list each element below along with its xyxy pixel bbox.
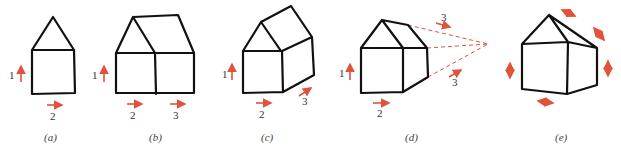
label-1: 1 [9,69,15,81]
panel-a: 1 2 (a) [9,17,75,144]
caption-d: (d) [405,131,418,144]
label-3: 3 [173,109,179,121]
panel-c: 1 2 3 (c) [222,6,314,144]
label-2: 2 [259,108,265,120]
label-1: 1 [222,68,228,80]
house-b [116,15,194,94]
double-arrow-diagonal-icon [594,28,604,40]
caption-e: (e) [555,131,568,144]
label-3-bottom: 3 [452,76,458,88]
caption-b: (b) [149,131,162,144]
arrow-depth-icon [436,23,450,27]
caption-c: (c) [261,131,274,144]
house-d [361,20,428,93]
label-1: 1 [339,67,345,79]
label-3: 3 [302,95,308,107]
vanishing-line-middle [427,44,488,48]
panel-e: (e) [510,10,608,144]
double-arrow-diagonal-icon [562,10,575,16]
panel-d: 1 2 3 3 (d) [339,11,488,144]
house-e [522,15,597,94]
figure-canvas: 1 2 (a) 1 2 3 (b) 1 2 3 (c) 1 2 3 [0,0,621,148]
label-2: 2 [50,110,56,122]
house-c [243,6,314,93]
label-2: 2 [377,107,383,119]
caption-a: (a) [44,131,57,144]
panel-b: 1 2 3 (b) [92,15,194,144]
house-a [32,17,75,94]
label-3-top: 3 [441,11,447,23]
label-1: 1 [92,69,98,81]
label-2: 2 [130,109,136,121]
double-arrow-horizontal-icon [538,101,553,103]
